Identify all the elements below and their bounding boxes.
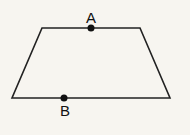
- point-a-label: A: [86, 9, 96, 26]
- trapezoid-diagram: A B: [0, 0, 190, 135]
- trapezoid: [12, 28, 170, 98]
- point-b-label: B: [60, 102, 70, 119]
- point-b: [61, 95, 68, 102]
